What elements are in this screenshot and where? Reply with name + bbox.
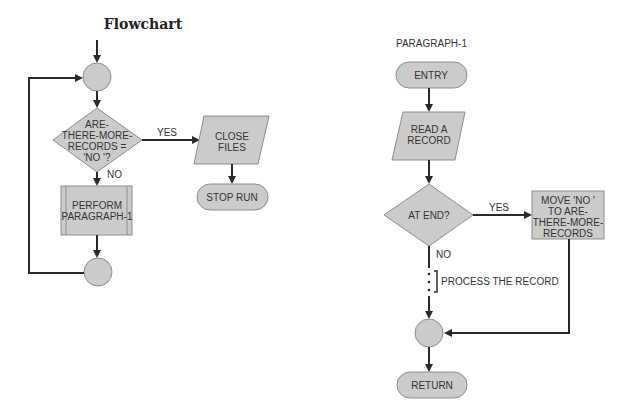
decision-line-3: RECORDS = <box>68 141 127 152</box>
paragraph-title: PARAGRAPH-1 <box>396 38 467 49</box>
process-move-no: MOVE 'NO ' TO ARE- THERE-MORE- RECORDS <box>532 191 604 239</box>
yes-label: YES <box>157 127 177 138</box>
top-connector <box>83 63 111 91</box>
stop-run-label: STOP RUN <box>206 192 257 203</box>
decision-line-4: 'NO '? <box>83 152 111 163</box>
move-line-3: THERE-MORE- <box>533 217 604 228</box>
annotation-bracket <box>434 271 437 292</box>
move-line-4: RECORDS <box>543 228 593 239</box>
decision-more-records: ARE- THERE-MORE- RECORDS = 'NO '? <box>53 108 142 172</box>
at-end-no-label: NO <box>436 249 451 260</box>
predefined-process-perform: PERFORM PARAGRAPH-1 <box>61 186 133 235</box>
close-files-line-2: FILES <box>218 142 246 153</box>
decision-line-2: THERE-MORE- <box>62 130 133 141</box>
decision-line-1: ARE- <box>85 119 109 130</box>
at-end-yes-label: YES <box>489 202 509 213</box>
read-line-2: RECORD <box>407 135 450 146</box>
no-label: NO <box>107 169 122 180</box>
move-line-1: MOVE 'NO ' <box>541 195 595 206</box>
process-record-ellipsis <box>428 271 437 292</box>
at-end-label: AT END? <box>408 210 450 221</box>
close-files-line-1: CLOSE <box>215 131 249 142</box>
loop-back-arrow <box>29 78 84 273</box>
terminal-return: RETURN <box>397 372 467 398</box>
io-read-record: READ A RECORD <box>392 112 465 160</box>
bottom-connector <box>84 258 112 286</box>
return-label: RETURN <box>411 380 453 391</box>
perform-line-1: PERFORM <box>72 200 122 211</box>
process-record-annotation: PROCESS THE RECORD <box>441 276 559 287</box>
terminal-stop-run: STOP RUN <box>197 184 268 210</box>
terminal-entry: ENTRY <box>396 62 467 88</box>
entry-label: ENTRY <box>414 70 448 81</box>
flowchart-title: Flowchart <box>104 16 183 32</box>
perform-line-2: PARAGRAPH-1 <box>62 211 133 222</box>
merge-connector <box>415 319 443 347</box>
decision-at-end: AT END? <box>384 184 473 246</box>
read-line-1: READ A <box>411 124 448 135</box>
io-close-files: CLOSE FILES <box>194 116 269 164</box>
move-line-2: TO ARE- <box>548 206 588 217</box>
flowchart-canvas: Flowchart ARE- THERE-MORE- RECORDS = 'NO… <box>0 0 627 411</box>
